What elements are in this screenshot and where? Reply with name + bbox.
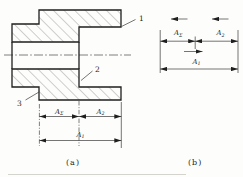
dimension-label-a1: A1 — [76, 131, 85, 140]
callout-3-leader — [26, 92, 40, 100]
dimension-chain-schematic: AΣ A2 A1 (b) — [160, 19, 238, 167]
part-section-view: 1 2 3 AΣ A2 A1 (a) — [4, 10, 144, 167]
figure-canvas: 1 2 3 AΣ A2 A1 (a) AΣ A2 A1 — [0, 0, 243, 177]
callout-1-label: 1 — [139, 14, 144, 23]
chain-label-a1: A1 — [192, 58, 201, 67]
callout-3-label: 3 — [17, 99, 22, 108]
chain-label-a-sigma: AΣ — [173, 29, 183, 38]
dimension-chain-figure: 1 2 3 AΣ A2 A1 (a) AΣ A2 A1 — [0, 0, 243, 177]
callout-1-leader — [122, 20, 136, 27]
part-upper-section-hatch — [12, 10, 121, 42]
chain-label-a2: A2 — [216, 29, 225, 38]
caption-view-a: (a) — [66, 158, 80, 167]
dimension-label-a-sigma: AΣ — [54, 108, 64, 117]
callout-2-leader — [81, 71, 93, 81]
callout-2-label: 2 — [95, 65, 100, 74]
dimension-label-a2: A2 — [96, 108, 105, 117]
part-lower-section-hatch — [12, 69, 121, 100]
caption-view-b: (b) — [188, 158, 202, 167]
